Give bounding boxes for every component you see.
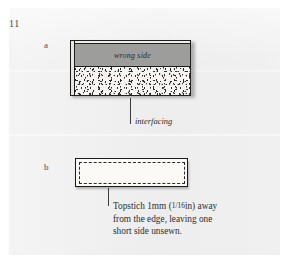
caption-line-1-pre: Topstich 1mm ( bbox=[113, 201, 172, 211]
diagram-a-folded-edge-strip bbox=[70, 40, 75, 96]
wrong-side-label: wrong side bbox=[114, 51, 151, 60]
caption-line-3: short side unsewn. bbox=[113, 225, 263, 238]
diagram-b-fabric-body bbox=[75, 158, 188, 187]
figure-number: 11 bbox=[9, 18, 20, 29]
caption-fraction: 1/16 bbox=[172, 201, 185, 210]
diagram-b-topstitched-piece bbox=[70, 155, 195, 193]
diagram-a-fabric-body: wrong side bbox=[74, 43, 191, 96]
diagram-label-a: a bbox=[44, 40, 48, 50]
scan-band-lower bbox=[9, 134, 280, 136]
topstitch-leader-line bbox=[108, 188, 109, 206]
caption-line-1-post: in) away bbox=[185, 201, 217, 211]
diagram-a-fabric-with-interfacing: wrong side bbox=[66, 36, 201, 106]
diagram-b-topstitch-dashed-line bbox=[79, 162, 185, 184]
caption-line-2: from the edge, leaving one bbox=[113, 213, 263, 226]
caption-line-1: Topstich 1mm (1/16in) away bbox=[113, 200, 263, 213]
interfacing-leader-line bbox=[130, 98, 131, 124]
diagram-label-b: b bbox=[44, 162, 49, 172]
diagram-a-wrong-side-panel: wrong side bbox=[75, 44, 190, 67]
topstitch-caption: Topstich 1mm (1/16in) away from the edge… bbox=[113, 200, 263, 238]
interfacing-label: interfacing bbox=[135, 116, 172, 126]
diagram-a-interfacing-texture bbox=[75, 67, 190, 95]
figure-page: 11 a b wrong side interfacing Topstich 1… bbox=[0, 0, 289, 271]
